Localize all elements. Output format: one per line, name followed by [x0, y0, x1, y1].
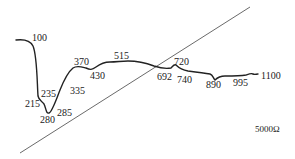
point-label: 285	[57, 108, 72, 118]
point-label: 1100	[261, 71, 281, 81]
resistance-scale-label: 5000Ω	[255, 125, 280, 134]
point-label: 100	[32, 33, 47, 43]
point-label: 720	[174, 57, 189, 67]
point-label: 890	[206, 80, 221, 90]
point-label: 995	[233, 78, 248, 88]
impedance-curve	[16, 40, 258, 113]
point-label: 215	[25, 99, 40, 109]
point-label: 515	[114, 51, 129, 61]
point-label: 370	[74, 57, 89, 67]
point-label: 335	[70, 86, 85, 96]
point-label: 692	[157, 72, 172, 82]
point-label: 280	[40, 115, 55, 125]
point-label: 235	[41, 89, 56, 99]
point-label: 740	[177, 75, 192, 85]
point-label: 430	[90, 71, 105, 81]
diagram-canvas	[0, 0, 295, 159]
